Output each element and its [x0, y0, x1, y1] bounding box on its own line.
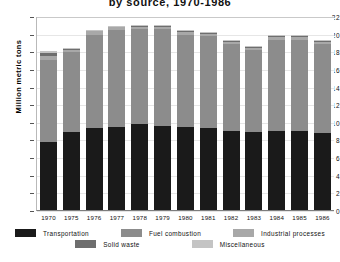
bar-segment [154, 29, 171, 126]
y-tick-mark [30, 88, 34, 89]
bar-segment [245, 50, 262, 132]
bar-column[interactable] [268, 17, 285, 210]
legend-row-1: TransportationFuel combustionIndustrial … [0, 229, 340, 237]
bar-segment [108, 127, 125, 210]
chart-title: by source, 1970-1986 [0, 0, 340, 8]
legend-label: Solid waste [103, 241, 140, 248]
bar-segment [86, 128, 103, 210]
legend-item[interactable]: Fuel combustion [121, 229, 201, 237]
bar-segment [291, 40, 308, 131]
bar-segment [63, 52, 80, 131]
legend-swatch-icon [121, 229, 142, 237]
bar-segment [63, 132, 80, 210]
bar-column[interactable] [131, 17, 148, 210]
bar-column[interactable] [200, 17, 217, 210]
y-tick-mark [30, 140, 34, 141]
legend-label: Miscellaneous [220, 241, 265, 248]
legend-swatch-icon [233, 229, 254, 237]
x-tick-label: 1986 [309, 214, 335, 221]
y-tick-mark [30, 158, 34, 159]
bar-segment [268, 131, 285, 210]
bar-column[interactable] [291, 17, 308, 210]
bar-segment [268, 40, 285, 131]
bar-segment [86, 35, 103, 128]
bar-segment [131, 124, 148, 210]
y-tick-mark [30, 176, 34, 177]
bar-segment [200, 36, 217, 128]
legend-item[interactable]: Solid waste [75, 240, 140, 248]
bar-column[interactable] [86, 17, 103, 210]
bar-column[interactable] [177, 17, 194, 210]
y-tick-mark [30, 17, 34, 18]
bar-segment [200, 128, 217, 210]
bar-column[interactable] [63, 17, 80, 210]
y-tick-mark [30, 35, 34, 36]
legend-item[interactable]: Transportation [15, 229, 89, 237]
bar-segment [177, 127, 194, 210]
legend-label: Industrial processes [261, 230, 325, 237]
bar-segment [245, 132, 262, 210]
y-tick-mark [30, 211, 34, 212]
y-tick-mark [30, 70, 34, 71]
bar-segment [314, 133, 331, 210]
y-tick-mark [30, 193, 34, 194]
bar-segment [314, 44, 331, 133]
legend-swatch-icon [15, 229, 36, 237]
bar-column[interactable] [154, 17, 171, 210]
y-axis-title: Million metric tons [14, 27, 23, 127]
bar-segment [291, 131, 308, 210]
y-tick-mark [30, 52, 34, 53]
bar-segment [131, 29, 148, 124]
bar-column[interactable] [314, 17, 331, 210]
y-tick-mark [30, 123, 34, 124]
bar-segment [40, 142, 57, 210]
legend-label: Transportation [43, 230, 89, 237]
plot-area [36, 17, 334, 211]
bar-segment [223, 131, 240, 210]
bar-segment [108, 30, 125, 127]
bar-column[interactable] [223, 17, 240, 210]
bar-column[interactable] [245, 17, 262, 210]
bar-column[interactable] [108, 17, 125, 210]
legend-label: Fuel combustion [149, 230, 201, 237]
legend-item[interactable]: Miscellaneous [192, 240, 265, 248]
y-tick-mark [30, 105, 34, 106]
bar-series-group [37, 17, 334, 210]
legend-swatch-icon [75, 240, 96, 248]
legend-item[interactable]: Industrial processes [233, 229, 325, 237]
bar-segment [177, 35, 194, 128]
legend-row-2: Solid wasteMiscellaneous [0, 240, 340, 248]
chart-legend: TransportationFuel combustionIndustrial … [0, 229, 340, 251]
bar-segment [154, 126, 171, 210]
bar-segment [40, 60, 57, 142]
gridline [37, 211, 334, 212]
legend-swatch-icon [192, 240, 213, 248]
bar-column[interactable] [40, 17, 57, 210]
bar-segment [223, 44, 240, 130]
